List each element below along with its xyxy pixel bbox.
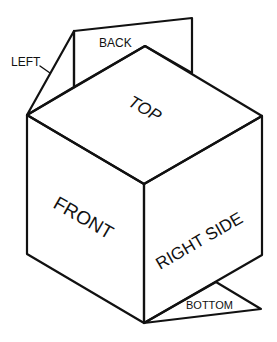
- label-back: BACK: [99, 36, 132, 50]
- cube-diagram: BACK LEFT TOP FRONT RIGHT SIDE BOTTOM: [0, 0, 277, 342]
- label-left: LEFT: [11, 55, 41, 69]
- left-leader-line: [40, 66, 50, 73]
- label-right-side: RIGHT SIDE: [153, 209, 246, 274]
- label-bottom: BOTTOM: [186, 299, 233, 311]
- label-top: TOP: [125, 92, 165, 126]
- label-front: FRONT: [50, 192, 118, 243]
- right-face: [144, 116, 262, 323]
